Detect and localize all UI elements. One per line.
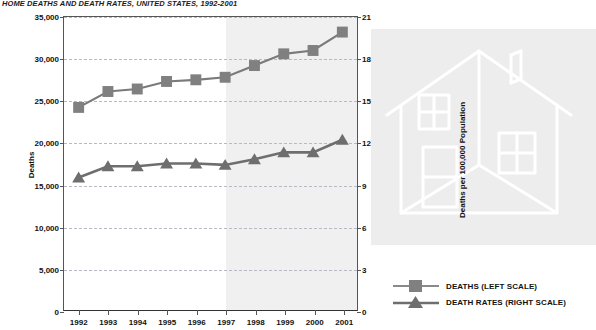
series-line <box>79 32 343 107</box>
right-tick-mark <box>357 101 361 102</box>
right-axis-tick-label: 18 <box>362 55 371 64</box>
x-tick-mark <box>226 310 227 315</box>
x-axis-tick-label: 1995 <box>158 318 176 327</box>
chart-title: HOME DEATHS AND DEATH RATES, UNITED STAT… <box>2 0 237 8</box>
legend-triangle-marker <box>392 295 440 309</box>
left-axis-tick-label: 15,000 <box>35 181 59 190</box>
data-point-triangle <box>336 134 349 145</box>
right-axis-tick-label: 0 <box>362 308 366 317</box>
right-axis-tick-label: 6 <box>362 223 366 232</box>
x-axis-tick-label: 2000 <box>306 318 324 327</box>
x-tick-mark <box>167 310 168 315</box>
x-axis-tick-label: 1994 <box>129 318 147 327</box>
right-tick-mark <box>357 186 361 187</box>
left-axis-tick-label: 5,000 <box>39 265 59 274</box>
x-tick-mark <box>285 310 286 315</box>
left-axis-tick-label: 25,000 <box>35 97 59 106</box>
data-point-square <box>337 27 348 38</box>
x-axis-tick-label: 1998 <box>247 318 265 327</box>
right-tick-mark <box>357 312 361 313</box>
left-axis-tick-label: 30,000 <box>35 55 59 64</box>
legend-square-marker <box>392 279 440 293</box>
x-tick-mark <box>108 310 109 315</box>
x-tick-mark <box>256 310 257 315</box>
data-point-square <box>220 72 231 83</box>
data-point-square <box>308 45 319 56</box>
x-axis-tick-label: 1996 <box>188 318 206 327</box>
data-point-square <box>132 84 143 95</box>
data-point-square <box>73 102 84 113</box>
legend-label-death-rates: DEATH RATES (RIGHT SCALE) <box>446 298 566 307</box>
right-tick-mark <box>357 228 361 229</box>
x-axis-tick-label: 1992 <box>70 318 88 327</box>
x-axis-tick-label: 1999 <box>276 318 294 327</box>
right-axis-tick-label: 9 <box>362 181 366 190</box>
right-tick-mark <box>357 143 361 144</box>
legend-item-deaths: DEATHS (LEFT SCALE) <box>392 278 566 294</box>
data-point-square <box>249 60 260 71</box>
series-layer <box>64 17 357 310</box>
x-tick-mark <box>79 310 80 315</box>
right-tick-mark <box>357 17 361 18</box>
legend-label-deaths: DEATHS (LEFT SCALE) <box>446 282 537 291</box>
legend-item-death-rates: DEATH RATES (RIGHT SCALE) <box>392 294 566 310</box>
right-axis-title: Deaths per 100,000 Population <box>458 102 467 218</box>
chart-legend: DEATHS (LEFT SCALE) DEATH RATES (RIGHT S… <box>392 278 566 310</box>
plot-area: 05,00010,00015,00020,00025,00030,00035,0… <box>63 16 358 311</box>
right-tick-mark <box>357 270 361 271</box>
house-icon <box>379 37 579 232</box>
left-axis-tick-label: 35,000 <box>35 13 59 22</box>
left-axis-tick-label: 10,000 <box>35 223 59 232</box>
left-axis-tick-label: 0 <box>55 308 59 317</box>
x-axis-tick-label: 1997 <box>217 318 235 327</box>
x-axis-tick-label: 2001 <box>335 318 353 327</box>
right-tick-mark <box>357 59 361 60</box>
x-tick-mark <box>344 310 345 315</box>
watermark-panel <box>371 29 596 245</box>
series-line <box>79 140 343 178</box>
x-axis-tick-label: 1993 <box>99 318 117 327</box>
right-axis-tick-label: 21 <box>362 13 371 22</box>
x-tick-mark <box>197 310 198 315</box>
data-point-square <box>278 48 289 59</box>
left-axis-title: Deaths <box>27 152 36 179</box>
right-axis-tick-label: 12 <box>362 139 371 148</box>
right-axis-tick-label: 15 <box>362 97 371 106</box>
left-tick-mark <box>60 312 64 313</box>
data-point-square <box>190 74 201 85</box>
right-axis-tick-label: 3 <box>362 265 366 274</box>
x-tick-mark <box>138 310 139 315</box>
left-axis-tick-label: 20,000 <box>35 139 59 148</box>
x-tick-mark <box>315 310 316 315</box>
data-point-square <box>161 76 172 87</box>
data-point-square <box>102 86 113 97</box>
